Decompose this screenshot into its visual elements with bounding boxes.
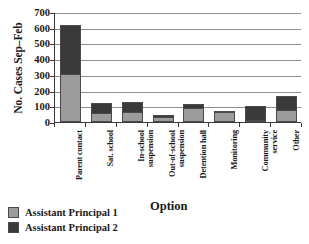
y-axis-tick-label: 600 — [6, 24, 50, 35]
bar-group — [91, 103, 112, 122]
y-axis-tick-label: 700 — [6, 8, 50, 19]
legend-swatch-icon — [8, 207, 19, 218]
bar-group — [60, 25, 81, 122]
y-axis-tick-label: 200 — [6, 87, 50, 98]
x-axis-category-label: Parent contact — [75, 130, 88, 204]
bar-segment — [153, 117, 174, 122]
x-axis-category-label: Monitoring — [230, 130, 243, 204]
bar-segment — [276, 110, 297, 122]
bar-group — [153, 115, 174, 122]
x-axis-category-label: Detention hall — [199, 130, 212, 204]
x-axis-category-label: In-school suspension — [137, 130, 150, 204]
bar-segment — [91, 103, 112, 113]
plot-area — [54, 13, 301, 123]
y-axis-tick-label: 100 — [6, 102, 50, 113]
x-axis-tick-mark — [147, 123, 148, 127]
bar-segment — [122, 102, 143, 113]
x-axis-tick-mark — [270, 123, 271, 127]
gridline — [55, 13, 301, 14]
gridline — [55, 92, 301, 93]
legend-item-label: Assistant Principal 1 — [25, 207, 118, 218]
bar-group — [245, 106, 266, 122]
bar-group — [214, 111, 235, 122]
bar-segment — [245, 106, 266, 119]
bar-segment — [214, 112, 235, 122]
x-axis-tick-mark — [239, 123, 240, 127]
x-axis-tick-mark — [178, 123, 179, 127]
legend-item: Assistant Principal 1 — [8, 205, 118, 220]
gridline — [55, 44, 301, 45]
x-axis-tick-mark — [116, 123, 117, 127]
bar-group — [276, 96, 297, 122]
x-axis-category-label: Community service — [261, 130, 274, 204]
y-axis-tick-label: 400 — [6, 55, 50, 66]
x-axis-tick-mark — [301, 123, 302, 127]
x-axis-category-label: Other — [292, 130, 305, 204]
gridline — [55, 29, 301, 30]
y-axis-tick-label: 500 — [6, 39, 50, 50]
x-axis-category-label: Sat. school — [106, 130, 119, 204]
x-axis-tick-mark — [208, 123, 209, 127]
bar-segment — [60, 74, 81, 122]
bar-segment — [183, 108, 204, 122]
gridline — [55, 60, 301, 61]
y-axis-tick-label: 0 — [6, 118, 50, 129]
bar-segment — [276, 96, 297, 110]
bar-chart-figure: No. Cases Sep–Feb 0100200300400500600700… — [0, 0, 309, 244]
x-axis-category-label: Out-of-school suspension — [168, 130, 181, 204]
bar-group — [183, 104, 204, 122]
x-axis-tick-mark — [54, 123, 55, 127]
bar-group — [122, 102, 143, 122]
bar-segment — [122, 112, 143, 122]
legend-item: Assistant Principal 2 — [8, 220, 118, 235]
gridline — [55, 76, 301, 77]
y-axis-tick-label: 300 — [6, 71, 50, 82]
x-axis-title: Option — [150, 199, 270, 214]
chart-legend: Assistant Principal 1Assistant Principal… — [8, 205, 118, 235]
bar-segment — [245, 120, 266, 122]
bar-segment — [91, 113, 112, 122]
legend-swatch-icon — [8, 222, 19, 233]
x-axis-tick-mark — [85, 123, 86, 127]
y-axis-title: No. Cases Sep–Feb — [12, 3, 24, 133]
legend-item-label: Assistant Principal 2 — [25, 222, 118, 233]
bar-segment — [60, 25, 81, 74]
